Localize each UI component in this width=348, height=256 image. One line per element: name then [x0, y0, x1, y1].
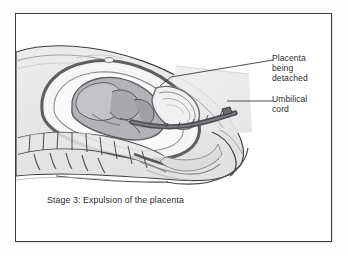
anatomical-illustration: [16, 14, 333, 243]
figure-caption: Stage 3: Expulsion of the placenta: [47, 195, 184, 206]
figure-root: Stage 3: Expulsion of the placenta Place…: [0, 0, 348, 256]
label-placenta-being-detached: Placenta being detached: [272, 53, 334, 84]
figure-frame: Stage 3: Expulsion of the placenta: [15, 13, 332, 242]
label-umbilical-cord: Umbilical cord: [272, 94, 334, 114]
